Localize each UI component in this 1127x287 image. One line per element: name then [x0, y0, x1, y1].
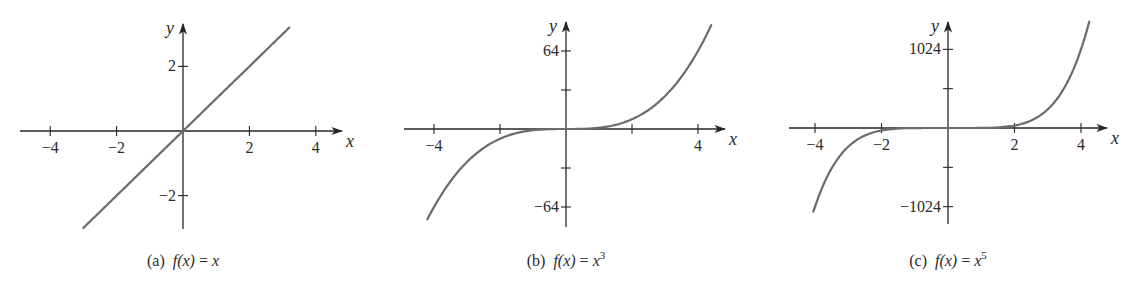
function-curve [83, 28, 289, 228]
x-tick-label: 4 [694, 137, 702, 154]
caption-function: f(x) [553, 252, 575, 269]
caption-function: f(x) [173, 252, 195, 269]
y-axis-label: y [164, 18, 174, 38]
x-tick-label: 2 [245, 139, 253, 156]
caption-b: (b) f(x) = x3 [527, 252, 606, 270]
caption-equals: = [961, 252, 970, 269]
chart-panel-c: xy−4−2241024−1024 [789, 16, 1119, 224]
caption-exponent: 3 [600, 249, 606, 261]
x-tick-label: −4 [806, 136, 823, 153]
x-tick-label: −2 [873, 136, 890, 153]
x-tick-label: 2 [1011, 136, 1019, 153]
y-tick-label: −2 [159, 187, 176, 204]
caption-equals: = [199, 252, 208, 269]
caption-a: (a) f(x) = x [147, 252, 219, 270]
x-tick-label: −4 [42, 139, 59, 156]
x-axis-label: x [1110, 128, 1119, 148]
caption-c: (c) f(x) = x5 [909, 252, 987, 270]
caption-prefix: (a) [147, 252, 165, 269]
y-tick-label: 1024 [909, 40, 941, 57]
caption-prefix: (b) [527, 252, 546, 269]
caption-prefix: (c) [909, 252, 927, 269]
function-curve [427, 25, 711, 219]
y-axis-label: y [547, 16, 557, 36]
y-tick-label: −1024 [900, 198, 941, 215]
caption-equals: = [580, 252, 589, 269]
plots-canvas: xy−4−2242−2 xy−4464−64 xy−4−2241024−1024 [0, 0, 1127, 287]
caption-exponent: 5 [981, 249, 987, 261]
caption-rhs: x [212, 252, 219, 269]
x-tick-label: 4 [1077, 136, 1085, 153]
chart-panel-a: xy−4−2242−2 [20, 18, 354, 229]
x-tick-label: 4 [312, 139, 320, 156]
caption-function: f(x) [935, 252, 957, 269]
y-tick-label: −64 [534, 198, 559, 215]
y-axis-label: y [929, 16, 939, 36]
x-tick-label: −2 [108, 139, 125, 156]
function-curve [813, 22, 1089, 212]
x-tick-label: −4 [425, 137, 442, 154]
y-tick-label: 64 [543, 42, 559, 59]
figure: xy−4−2242−2 xy−4464−64 xy−4−2241024−1024… [0, 0, 1127, 287]
y-tick-label: 2 [168, 57, 176, 74]
chart-panel-b: xy−4464−64 [404, 16, 737, 227]
x-axis-label: x [728, 129, 737, 149]
x-axis-label: x [345, 131, 354, 151]
caption-rhs: x [593, 252, 600, 269]
